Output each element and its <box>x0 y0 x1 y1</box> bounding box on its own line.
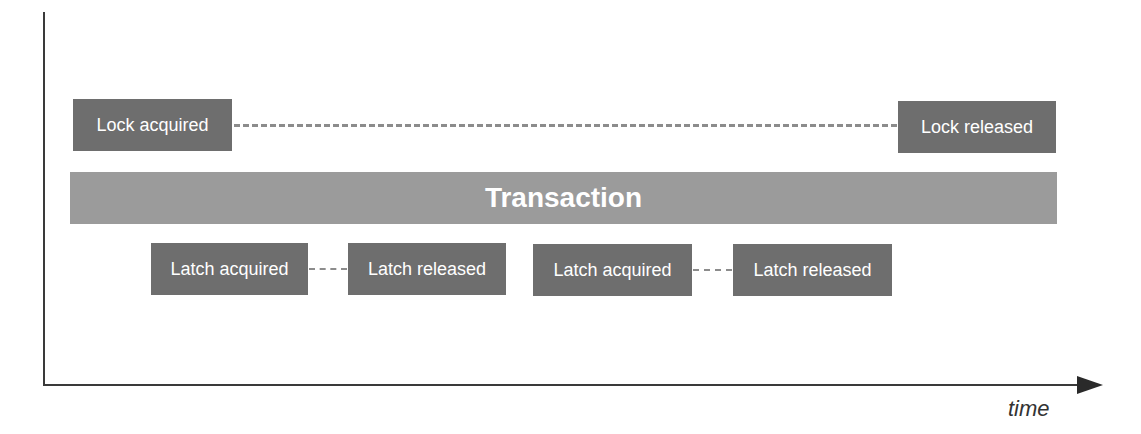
lock-dashed-connector <box>234 124 897 127</box>
y-axis <box>43 12 45 386</box>
latch-dashed-connector-2 <box>693 269 732 271</box>
transaction-bar: Transaction <box>70 172 1057 224</box>
x-axis <box>43 384 1083 386</box>
latch-acquired-box-1: Latch acquired <box>151 243 308 295</box>
latch-released-box-2: Latch released <box>733 244 892 296</box>
arrow-right-icon <box>1077 376 1103 394</box>
lock-released-box: Lock released <box>898 101 1056 153</box>
latch-dashed-connector-1 <box>309 268 347 270</box>
lock-acquired-box: Lock acquired <box>73 99 232 151</box>
latch-acquired-box-2: Latch acquired <box>533 244 692 296</box>
latch-released-box-1: Latch released <box>348 243 506 295</box>
time-axis-label: time <box>1008 396 1050 422</box>
